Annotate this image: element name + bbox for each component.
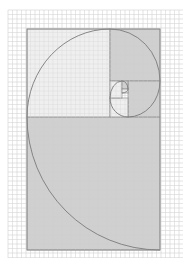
golden-spiral-diagram: [0, 0, 191, 265]
